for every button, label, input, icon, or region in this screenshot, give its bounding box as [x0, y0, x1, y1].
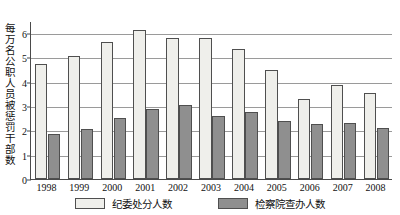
bar-group	[68, 22, 94, 179]
x-tick-label: 2008	[366, 182, 386, 193]
bar-group	[35, 22, 61, 179]
bar	[232, 49, 245, 179]
bar-group	[133, 22, 159, 179]
bar	[114, 118, 127, 179]
x-tick-label: 1998	[36, 182, 56, 193]
x-tick-label: 2005	[267, 182, 287, 193]
legend-label: 纪委处分人数	[112, 196, 172, 211]
bar-group	[232, 22, 258, 179]
y-tick-label: 1	[22, 150, 27, 161]
bar-group	[298, 22, 324, 179]
bar-group	[199, 22, 225, 179]
bar	[146, 109, 159, 179]
bar	[377, 128, 390, 179]
x-tick-label: 2003	[201, 182, 221, 193]
bar	[331, 85, 344, 179]
bar	[81, 129, 94, 179]
bar	[101, 42, 114, 179]
bar	[35, 64, 48, 179]
bar-series-container	[31, 22, 392, 179]
bar	[48, 134, 61, 179]
y-tick-label: 0	[22, 175, 27, 186]
bar-group	[364, 22, 390, 179]
y-tick-label: 3	[22, 102, 27, 113]
chart-legend: 纪委处分人数检察院查办人数	[0, 196, 400, 211]
x-tick-label: 2000	[102, 182, 122, 193]
bar	[199, 38, 212, 179]
y-tick-label: 5	[22, 53, 27, 64]
y-tick-label: 2	[22, 126, 27, 137]
y-tick-label: 4	[22, 77, 27, 88]
x-tick-label: 2007	[333, 182, 353, 193]
legend-swatch	[75, 198, 105, 209]
x-axis-labels: 1998199920002001200220032004200520062007…	[30, 181, 392, 197]
bar-chart: 每万名公职人员被惩罚干部数 0123456 199819992000200120…	[0, 0, 400, 215]
legend-item: 检察院查办人数	[218, 196, 325, 211]
plot-area: 0123456	[30, 22, 392, 180]
bar-group	[166, 22, 192, 179]
bar-group	[265, 22, 291, 179]
y-tick-label: 6	[22, 29, 27, 40]
bar	[179, 105, 192, 179]
bar	[344, 123, 357, 179]
x-tick-label: 2006	[300, 182, 320, 193]
bar	[298, 99, 311, 179]
bar	[68, 56, 81, 179]
bar	[245, 112, 258, 179]
bar-group	[331, 22, 357, 179]
legend-item: 纪委处分人数	[75, 196, 172, 211]
x-tick-label: 2002	[168, 182, 188, 193]
x-tick-label: 2004	[234, 182, 254, 193]
bar-group	[101, 22, 127, 179]
bar	[311, 124, 324, 179]
x-tick-label: 1999	[69, 182, 89, 193]
bar	[278, 121, 291, 179]
bar	[133, 30, 146, 179]
bar	[265, 70, 278, 179]
bar	[364, 93, 377, 179]
bar	[166, 38, 179, 179]
legend-label: 检察院查办人数	[255, 196, 325, 211]
y-axis-title: 每万名公职人员被惩罚干部数	[1, 8, 16, 180]
legend-swatch	[218, 198, 248, 209]
bar	[212, 116, 225, 179]
x-tick-label: 2001	[135, 182, 155, 193]
